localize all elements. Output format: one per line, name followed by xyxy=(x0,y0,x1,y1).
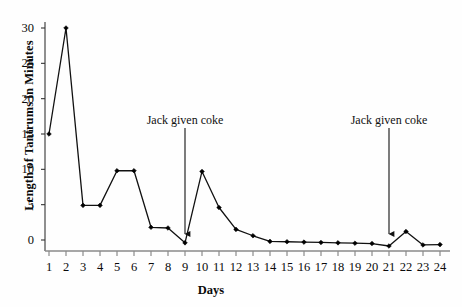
data-point-marker xyxy=(81,203,86,208)
data-point-marker xyxy=(132,168,137,173)
data-point-marker xyxy=(319,240,324,245)
x-tick-label: 24 xyxy=(429,260,451,275)
annotation-label: Jack given coke xyxy=(351,113,428,128)
data-point-marker xyxy=(302,240,307,245)
data-point-marker xyxy=(115,168,120,173)
data-point-marker xyxy=(251,233,256,238)
y-tick-label: 0 xyxy=(8,233,34,248)
data-point-marker xyxy=(98,203,103,208)
y-tick-label: 30 xyxy=(8,21,34,36)
data-point-marker xyxy=(64,26,69,31)
data-line xyxy=(49,28,440,246)
y-tick-label: 10 xyxy=(8,162,34,177)
y-tick-label: 5 xyxy=(8,197,34,212)
tantrum-line-chart: Length of Tantrums in Minutes 0510152025… xyxy=(0,0,462,307)
data-point-marker xyxy=(353,241,358,246)
data-point-marker xyxy=(438,242,443,247)
data-point-marker xyxy=(370,241,375,246)
data-point-marker xyxy=(336,241,341,246)
data-point-marker xyxy=(285,239,290,244)
y-tick-label: 20 xyxy=(8,91,34,106)
y-tick-label: 15 xyxy=(8,127,34,142)
y-tick-label: 25 xyxy=(8,56,34,71)
x-axis-title-text: Days xyxy=(198,283,224,297)
annotation-label: Jack given coke xyxy=(147,113,224,128)
data-point-marker xyxy=(47,132,52,137)
data-point-marker xyxy=(149,225,154,230)
data-point-marker xyxy=(268,239,273,244)
data-point-marker xyxy=(200,169,205,174)
x-axis-title: Days xyxy=(0,283,462,298)
